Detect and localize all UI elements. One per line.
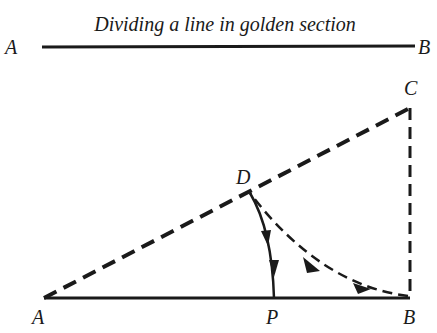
top-line-ab xyxy=(42,46,415,47)
point-label-d: D xyxy=(235,166,251,188)
point-label-b: B xyxy=(403,306,415,328)
point-label-c: C xyxy=(404,77,418,99)
golden-section-diagram: Dividing a line in golden section A B A … xyxy=(0,0,437,333)
arrowhead-arc-2 xyxy=(353,283,371,294)
point-label-p: P xyxy=(265,306,278,328)
diagram-title: Dividing a line in golden section xyxy=(93,13,356,36)
top-line-label-a: A xyxy=(3,36,18,58)
hypotenuse-ac xyxy=(44,108,410,298)
top-line-label-b: B xyxy=(418,36,430,58)
arc-dp xyxy=(250,193,274,298)
point-label-a: A xyxy=(30,306,45,328)
arrowhead-dp-2 xyxy=(269,260,279,277)
